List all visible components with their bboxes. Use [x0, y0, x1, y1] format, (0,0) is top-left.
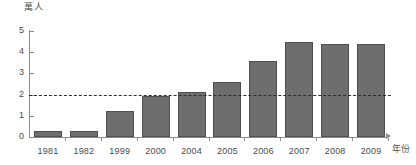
y-axis-tick-label: 0 [2, 132, 24, 141]
bar-2008 [321, 44, 349, 137]
x-axis-label: 年份 [392, 144, 410, 154]
y-axis-tick [29, 116, 34, 117]
x-axis-tick [65, 138, 66, 141]
y-axis-tick-label: 2 [2, 90, 24, 99]
y-axis-tick [29, 31, 34, 32]
x-axis-tick-label-1999: 1999 [103, 146, 137, 156]
x-axis-tick-label-2000: 2000 [139, 146, 173, 156]
x-axis-tick-label-2006: 2006 [246, 146, 280, 156]
y-axis-line [29, 30, 30, 138]
x-axis-tick-label-2009: 2009 [354, 146, 388, 156]
y-axis-tick-label: 5 [2, 26, 24, 35]
x-axis-tick-label-2008: 2008 [318, 146, 352, 156]
x-axis-tick [209, 138, 210, 141]
bar-1982 [70, 131, 98, 137]
x-axis-tick [244, 138, 245, 141]
y-axis-unit-label: 萬人 [24, 2, 43, 13]
bar-2004 [178, 92, 206, 137]
bar-1981 [34, 131, 62, 137]
x-axis-tick [388, 138, 389, 141]
x-axis-tick [137, 138, 138, 141]
bar-1999 [106, 111, 134, 138]
x-axis-tick-label-2004: 2004 [175, 146, 209, 156]
bar-2000 [142, 96, 170, 137]
y-axis-tick-label: 1 [2, 111, 24, 120]
bar-2005 [213, 82, 241, 137]
x-axis-tick-label-2005: 2005 [210, 146, 244, 156]
x-axis-tick [352, 138, 353, 141]
y-axis-tick [29, 137, 34, 138]
x-axis-tick-label-2007: 2007 [282, 146, 316, 156]
x-axis-tick [101, 138, 102, 141]
bar-2006 [249, 61, 277, 137]
x-axis-tick [316, 138, 317, 141]
reference-line [29, 95, 391, 96]
x-axis-tick-label-1981: 1981 [31, 146, 65, 156]
y-axis-tick-label: 3 [2, 68, 24, 77]
bar-2007 [285, 42, 313, 137]
x-axis-tick [173, 138, 174, 141]
y-axis-tick [29, 52, 34, 53]
bar-chart: 萬人 012345 198119821999200020042005200620… [0, 0, 416, 165]
y-axis-tick-label: 4 [2, 47, 24, 56]
bar-2009 [357, 44, 385, 137]
y-axis-tick [29, 73, 34, 74]
x-axis-tick-label-1982: 1982 [67, 146, 101, 156]
x-axis-tick [280, 138, 281, 141]
